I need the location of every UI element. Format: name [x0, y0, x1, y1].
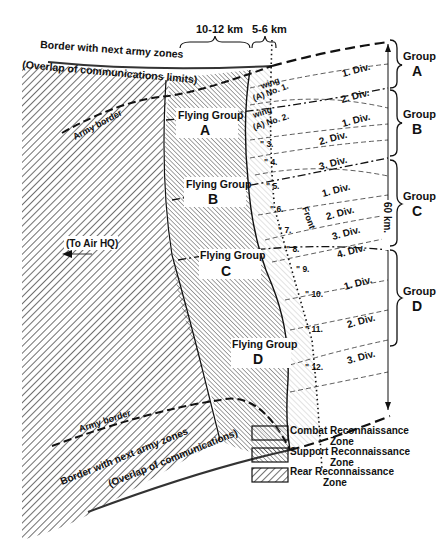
svg-text:" 9.: " 9. [296, 264, 309, 274]
division-label: 1. Div. [341, 61, 372, 79]
svg-text:Zone: Zone [323, 477, 347, 488]
svg-text:" 7.: " 7. [278, 225, 291, 235]
svg-text:" 11.: " 11. [305, 324, 323, 334]
front-label: Front [300, 205, 317, 230]
svg-text:2. Div.: 2. Div. [346, 312, 377, 330]
svg-text:2. Div.: 2. Div. [325, 204, 356, 222]
svg-text:Flying Group: Flying Group [178, 109, 243, 121]
legend-swatch-combat [252, 426, 288, 440]
svg-text:" 6.: " 6. [270, 204, 283, 214]
combat-width-label: 5-6 km [252, 23, 287, 35]
svg-text:3. Div.: 3. Div. [346, 348, 377, 366]
legend-swatch-support [252, 448, 288, 462]
svg-text:C: C [412, 203, 422, 219]
border-top-label: Border with next army zones [40, 38, 184, 60]
svg-text:Support Reconnaissance: Support Reconnaissance [290, 446, 410, 457]
svg-text:Group: Group [403, 50, 436, 62]
flying-group-b: Flying Group B [184, 177, 251, 207]
svg-text:Combat Reconnaissance: Combat Reconnaissance [290, 425, 409, 436]
legend: Combat Reconnaissance Zone Support Recon… [252, 425, 410, 488]
svg-text:" 5.: " 5. [266, 181, 279, 191]
flying-group-a: Flying Group A [176, 108, 243, 138]
svg-text:A: A [412, 63, 422, 79]
group-a-label: Group A [403, 50, 436, 79]
svg-text:" 8.: " 8. [286, 244, 299, 254]
svg-text:D: D [412, 298, 422, 314]
svg-text:Group: Group [403, 285, 436, 297]
svg-text:1. Div.: 1. Div. [343, 274, 374, 292]
svg-text:Flying Group: Flying Group [232, 338, 297, 350]
svg-text:Group: Group [403, 108, 436, 120]
svg-text:" 10.: " 10. [305, 289, 323, 299]
svg-text:Rear Reconnaissance: Rear Reconnaissance [290, 466, 394, 477]
svg-text:Group: Group [403, 190, 436, 202]
group-d-label: Group D [403, 285, 436, 314]
flying-group-c: Flying Group C [199, 249, 265, 279]
to-air-hq-label: (To Air HQ) [66, 238, 118, 249]
group-c-label: Group C [403, 190, 436, 219]
svg-text:Flying Group: Flying Group [186, 178, 251, 190]
svg-text:D: D [253, 351, 263, 367]
svg-text:2. Div.: 2. Div. [318, 129, 349, 147]
svg-text:4. Div.: 4. Div. [336, 242, 367, 260]
flying-group-d: Flying Group D [231, 338, 297, 368]
svg-text:A: A [200, 122, 210, 138]
svg-text:B: B [208, 191, 218, 207]
svg-text:" 3.: " 3. [260, 139, 273, 149]
legend-swatch-rear [252, 468, 288, 482]
svg-text:1. Div.: 1. Div. [341, 111, 372, 129]
group-b-label: Group B [403, 108, 436, 137]
svg-text:3. Div.: 3. Div. [331, 224, 362, 242]
svg-text:1. Div.: 1. Div. [321, 181, 352, 199]
svg-text:" 12.: " 12. [305, 362, 323, 372]
reconnaissance-zones-diagram: 60 km. 10-12 km 5-6 km Border with next … [0, 0, 447, 540]
support-width-label: 10-12 km [196, 23, 243, 35]
svg-text:Flying Group: Flying Group [200, 249, 265, 261]
svg-text:" 4.: " 4. [264, 157, 277, 167]
svg-text:C: C [221, 263, 231, 279]
svg-text:B: B [412, 121, 422, 137]
depth-label: 60 km. [382, 202, 393, 233]
